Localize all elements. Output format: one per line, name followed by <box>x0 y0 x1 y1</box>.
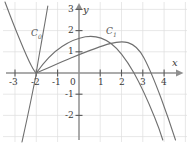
curve-label-c0-subscript: 0 <box>38 33 42 40</box>
y-tick-label-2: 2 <box>68 26 74 35</box>
y-tick-label-1: 1 <box>68 47 74 56</box>
x-tick-label--1: -1 <box>52 78 61 87</box>
plot-background <box>0 0 189 144</box>
curve-label-c1: C1 <box>106 27 117 38</box>
y-tick-label--2: -2 <box>65 111 74 120</box>
curve-label-c0-text: C <box>31 28 38 38</box>
curve-label-c1-text: C <box>106 26 113 36</box>
y-tick-label-3: 3 <box>68 5 74 14</box>
origin-label: 0 <box>70 78 76 87</box>
x-tick-label-3: 3 <box>140 78 146 87</box>
coordinate-plot <box>0 0 189 144</box>
x-tick-label--2: -2 <box>31 78 40 87</box>
y-tick-label--1: -1 <box>65 90 74 99</box>
x-tick-label--3: -3 <box>9 78 18 87</box>
x-tick-label-2: 2 <box>119 78 125 87</box>
graph-figure: -3 -2 -1 1 2 3 4 3 2 1 -1 -2 0 x y C0 C1 <box>0 0 189 144</box>
y-axis-label: y <box>83 5 89 15</box>
x-tick-label-1: 1 <box>98 78 104 87</box>
x-axis-label: x <box>172 58 178 68</box>
curve-label-c1-subscript: 1 <box>113 31 117 38</box>
x-tick-label-4: 4 <box>161 78 167 87</box>
curve-label-c0: C0 <box>31 29 42 40</box>
